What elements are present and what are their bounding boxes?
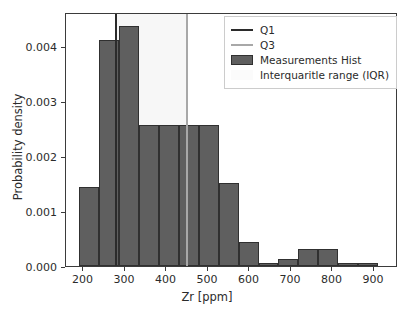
x-tick-mark xyxy=(207,267,208,271)
legend-q1-line-swatch xyxy=(231,24,253,36)
x-tick-mark xyxy=(331,267,332,271)
legend-entry-label: Measurements Hist xyxy=(260,54,361,66)
legend-entry-label: Interquaritle range (IQR) xyxy=(260,69,389,81)
histogram-figure: 200300400500600700800900 0.0000.0010.002… xyxy=(0,0,414,311)
y-tick-mark xyxy=(61,47,65,48)
x-tick-label: 500 xyxy=(196,273,217,286)
legend-bar-patch-swatch xyxy=(231,54,253,66)
legend-entry: Q3 xyxy=(231,38,389,52)
y-tick-label: 0.004 xyxy=(11,41,57,54)
x-tick-label: 400 xyxy=(155,273,176,286)
y-tick-label: 0.000 xyxy=(11,261,57,274)
y-tick-mark xyxy=(61,212,65,213)
x-tick-label: 200 xyxy=(72,273,93,286)
x-tick-mark xyxy=(165,267,166,271)
x-axis-label: Zr [ppm] xyxy=(0,290,414,304)
x-tick-mark xyxy=(124,267,125,271)
y-tick-mark xyxy=(61,267,65,268)
legend-entry-label: Q3 xyxy=(260,39,275,51)
q3-line xyxy=(186,14,187,266)
legend-entry: Interquaritle range (IQR) xyxy=(231,68,389,82)
x-tick-label: 300 xyxy=(113,273,134,286)
legend-iqr-patch-swatch xyxy=(231,69,253,81)
x-tick-mark xyxy=(82,267,83,271)
x-tick-mark xyxy=(248,267,249,271)
x-tick-label: 900 xyxy=(362,273,383,286)
y-axis-label: Probability density xyxy=(11,67,25,227)
legend-entry-label: Q1 xyxy=(260,24,275,36)
legend-entry: Q1 xyxy=(231,23,389,37)
x-tick-label: 600 xyxy=(238,273,259,286)
legend-q3-line-swatch xyxy=(231,39,253,51)
x-tick-label: 800 xyxy=(321,273,342,286)
x-tick-label: 700 xyxy=(279,273,300,286)
chart-legend: Q1Q3Measurements HistInterquaritle range… xyxy=(224,16,397,89)
x-tick-mark xyxy=(290,267,291,271)
y-tick-mark xyxy=(61,102,65,103)
q1-line xyxy=(115,14,116,266)
legend-entry: Measurements Hist xyxy=(231,53,389,67)
x-tick-mark xyxy=(373,267,374,271)
y-tick-mark xyxy=(61,157,65,158)
